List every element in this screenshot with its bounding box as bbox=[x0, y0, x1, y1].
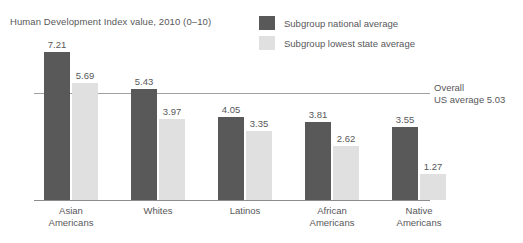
category-label: AfricanAmericans bbox=[283, 205, 381, 228]
hdi-bar-chart: Human Development Index value, 2010 (0–1… bbox=[0, 0, 523, 243]
bar-value-lowest-state: 1.27 bbox=[411, 161, 455, 172]
bar-value-national: 4.05 bbox=[209, 104, 253, 115]
bar-value-lowest-state: 3.97 bbox=[150, 106, 194, 117]
bar-value-lowest-state: 5.69 bbox=[63, 70, 107, 81]
category-label-line2: Americans bbox=[22, 217, 120, 229]
bar-lowest-state bbox=[72, 83, 98, 200]
bar-value-national: 7.21 bbox=[35, 39, 79, 50]
bar-value-lowest-state: 2.62 bbox=[324, 133, 368, 144]
category-label-line2: Americans bbox=[283, 217, 381, 229]
category-label-line1: Native bbox=[370, 205, 468, 217]
category-label-line1: Latinos bbox=[196, 205, 294, 217]
bar-lowest-state bbox=[420, 174, 446, 200]
bar-value-national: 5.43 bbox=[122, 76, 166, 87]
axis-baseline bbox=[34, 200, 430, 201]
category-label: Latinos bbox=[196, 205, 294, 217]
bar-national bbox=[218, 117, 244, 200]
overall-average-line2: US average 5.03 bbox=[434, 94, 505, 106]
bar-lowest-state bbox=[333, 146, 359, 200]
bar-lowest-state bbox=[159, 119, 185, 200]
bar-lowest-state bbox=[246, 131, 272, 200]
overall-average-annotation: Overall US average 5.03 bbox=[434, 82, 505, 105]
category-label-line2: Americans bbox=[370, 217, 468, 229]
category-label-line1: Asian bbox=[22, 205, 120, 217]
category-label-line1: African bbox=[283, 205, 381, 217]
plot-area: Overall US average 5.03 7.215.69AsianAme… bbox=[0, 0, 523, 243]
bar-value-lowest-state: 3.35 bbox=[237, 118, 281, 129]
category-label-line1: Whites bbox=[109, 205, 207, 217]
bar-value-national: 3.55 bbox=[383, 114, 427, 125]
overall-average-line1: Overall bbox=[434, 82, 505, 94]
bar-value-national: 3.81 bbox=[296, 109, 340, 120]
category-label: NativeAmericans bbox=[370, 205, 468, 228]
category-label: Whites bbox=[109, 205, 207, 217]
category-label: AsianAmericans bbox=[22, 205, 120, 228]
